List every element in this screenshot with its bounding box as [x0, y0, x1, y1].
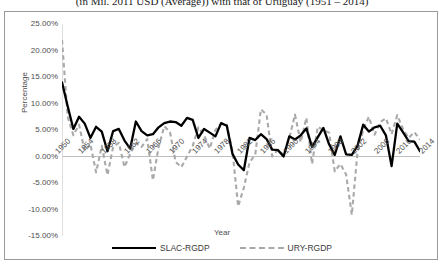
legend-swatch-dashed-icon: [240, 247, 284, 249]
y-tick-label: -10.00%: [28, 206, 58, 214]
y-axis-ticks: 25.00%20.00%15.00%10.00%5.00%0.00%-5.00%…: [0, 24, 58, 236]
y-tick-label: 15.00%: [31, 73, 58, 81]
y-tick-label: 25.00%: [31, 20, 58, 28]
y-tick-label: 20.00%: [31, 47, 58, 55]
chart-caption: (in Mil. 2011 USD (Average)) with that o…: [0, 0, 444, 7]
x-axis-ticks: 1950195419581962196619701974197819821986…: [62, 150, 422, 190]
legend-swatch-solid-icon: [112, 247, 156, 249]
y-tick-label: 5.00%: [35, 126, 58, 134]
y-tick-label: 0.00%: [35, 153, 58, 161]
legend-label: SLAC-RGDP: [160, 243, 210, 253]
legend-item[interactable]: SLAC-RGDP: [112, 243, 210, 253]
chart-legend: SLAC-RGDPURY-RGDP: [0, 243, 444, 253]
plot-area: [62, 24, 420, 236]
chart-figure: (in Mil. 2011 USD (Average)) with that o…: [0, 0, 444, 268]
x-axis-title: Year: [0, 228, 444, 237]
legend-label: URY-RGDP: [288, 243, 332, 253]
y-tick-label: 10.00%: [31, 100, 58, 108]
y-axis-title: Percentage: [20, 53, 29, 133]
y-tick-label: -5.00%: [33, 179, 58, 187]
legend-item[interactable]: URY-RGDP: [240, 243, 332, 253]
chart-svg: [62, 24, 420, 236]
